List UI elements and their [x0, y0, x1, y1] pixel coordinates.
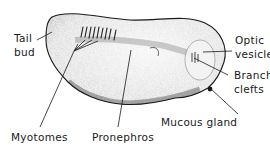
- label-optic-vesicle-line2: vesicle: [235, 48, 270, 60]
- label-myotomes: Myotomes: [11, 131, 68, 143]
- label-tail-bud-line2: bud: [14, 46, 35, 58]
- label-optic-vesicle-line1: Optic: [235, 34, 264, 46]
- label-branchial-clefts-line2: clefts: [234, 83, 264, 95]
- label-tail-bud-line1: Tail: [13, 32, 32, 44]
- embryo-diagram: Tail bud Optic vesicle Branchial clefts …: [0, 0, 270, 154]
- label-pronephros: Pronephros: [92, 131, 154, 143]
- label-branchial-clefts-line1: Branchial: [234, 69, 270, 81]
- optic-vesicle-shape: [185, 40, 215, 80]
- mucous-gland-shape: [208, 87, 213, 92]
- label-mucous-gland: Mucous gland: [161, 116, 237, 128]
